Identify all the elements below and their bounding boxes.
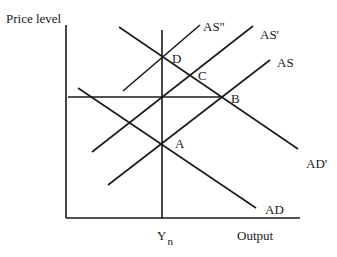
ad-curve <box>78 88 256 208</box>
as-curve <box>108 60 270 185</box>
point-d-label: D <box>172 52 181 65</box>
as-label: AS <box>277 56 294 69</box>
ad-prime-label: AD' <box>306 157 327 170</box>
ad-label: AD <box>265 203 284 216</box>
y-axis-label: Price level <box>6 12 61 25</box>
x-axis-label: Output <box>237 229 273 242</box>
yn-label: Yn <box>157 229 172 242</box>
point-c-label: C <box>198 69 207 82</box>
ad-as-diagram <box>0 0 337 257</box>
as-prime-label: AS' <box>260 28 279 41</box>
as-double-prime-label: AS" <box>203 20 225 33</box>
ad-prime-curve <box>119 27 298 149</box>
yn-label-subscript: n <box>167 235 173 247</box>
point-a-label: A <box>175 137 184 150</box>
point-b-label: B <box>231 92 240 105</box>
as-prime-curve <box>92 26 253 152</box>
yn-label-main: Y <box>157 228 166 243</box>
